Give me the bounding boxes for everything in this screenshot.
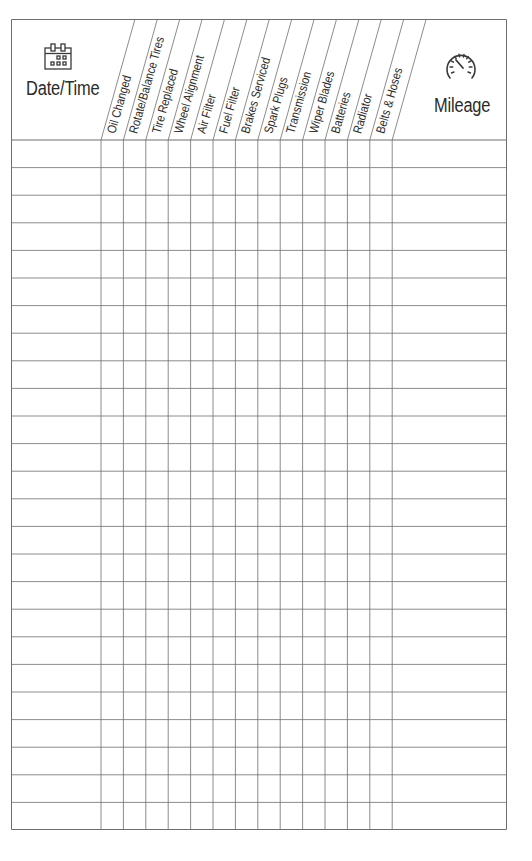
checkbox-cell[interactable] <box>303 692 325 720</box>
mileage-cell[interactable] <box>392 388 507 416</box>
checkbox-cell[interactable] <box>191 692 213 720</box>
checkbox-cell[interactable] <box>146 250 168 278</box>
checkbox-cell[interactable] <box>303 499 325 527</box>
checkbox-cell[interactable] <box>168 720 190 748</box>
checkbox-cell[interactable] <box>258 747 280 775</box>
checkbox-cell[interactable] <box>370 388 392 416</box>
date-time-cell[interactable] <box>11 444 101 472</box>
checkbox-cell[interactable] <box>347 195 369 223</box>
checkbox-cell[interactable] <box>101 361 123 389</box>
checkbox-cell[interactable] <box>191 195 213 223</box>
date-time-cell[interactable] <box>11 416 101 444</box>
mileage-cell[interactable] <box>392 416 507 444</box>
checkbox-cell[interactable] <box>235 775 257 803</box>
checkbox-cell[interactable] <box>235 664 257 692</box>
checkbox-cell[interactable] <box>235 499 257 527</box>
checkbox-cell[interactable] <box>258 140 280 168</box>
mileage-cell[interactable] <box>392 609 507 637</box>
checkbox-cell[interactable] <box>191 609 213 637</box>
checkbox-cell[interactable] <box>325 747 347 775</box>
checkbox-cell[interactable] <box>347 168 369 196</box>
checkbox-cell[interactable] <box>213 388 235 416</box>
checkbox-cell[interactable] <box>168 388 190 416</box>
checkbox-cell[interactable] <box>280 554 302 582</box>
date-time-cell[interactable] <box>11 720 101 748</box>
checkbox-cell[interactable] <box>347 444 369 472</box>
checkbox-cell[interactable] <box>258 637 280 665</box>
checkbox-cell[interactable] <box>168 278 190 306</box>
checkbox-cell[interactable] <box>303 140 325 168</box>
checkbox-cell[interactable] <box>123 720 145 748</box>
checkbox-cell[interactable] <box>347 223 369 251</box>
checkbox-cell[interactable] <box>123 554 145 582</box>
checkbox-cell[interactable] <box>168 637 190 665</box>
checkbox-cell[interactable] <box>101 692 123 720</box>
checkbox-cell[interactable] <box>258 554 280 582</box>
checkbox-cell[interactable] <box>235 195 257 223</box>
date-time-cell[interactable] <box>11 195 101 223</box>
checkbox-cell[interactable] <box>191 664 213 692</box>
checkbox-cell[interactable] <box>370 278 392 306</box>
checkbox-cell[interactable] <box>325 444 347 472</box>
mileage-cell[interactable] <box>392 802 507 830</box>
checkbox-cell[interactable] <box>325 168 347 196</box>
checkbox-cell[interactable] <box>280 140 302 168</box>
mileage-cell[interactable] <box>392 554 507 582</box>
checkbox-cell[interactable] <box>347 664 369 692</box>
checkbox-cell[interactable] <box>191 416 213 444</box>
checkbox-cell[interactable] <box>235 278 257 306</box>
checkbox-cell[interactable] <box>347 416 369 444</box>
checkbox-cell[interactable] <box>370 333 392 361</box>
checkbox-cell[interactable] <box>347 637 369 665</box>
checkbox-cell[interactable] <box>191 250 213 278</box>
checkbox-cell[interactable] <box>101 223 123 251</box>
mileage-cell[interactable] <box>392 168 507 196</box>
checkbox-cell[interactable] <box>123 223 145 251</box>
checkbox-cell[interactable] <box>325 361 347 389</box>
checkbox-cell[interactable] <box>235 416 257 444</box>
checkbox-cell[interactable] <box>101 526 123 554</box>
mileage-cell[interactable] <box>392 499 507 527</box>
checkbox-cell[interactable] <box>146 223 168 251</box>
checkbox-cell[interactable] <box>213 554 235 582</box>
checkbox-cell[interactable] <box>280 775 302 803</box>
date-time-cell[interactable] <box>11 361 101 389</box>
checkbox-cell[interactable] <box>123 747 145 775</box>
checkbox-cell[interactable] <box>168 471 190 499</box>
checkbox-cell[interactable] <box>325 499 347 527</box>
checkbox-cell[interactable] <box>347 747 369 775</box>
checkbox-cell[interactable] <box>303 471 325 499</box>
checkbox-cell[interactable] <box>123 775 145 803</box>
checkbox-cell[interactable] <box>168 609 190 637</box>
checkbox-cell[interactable] <box>347 278 369 306</box>
checkbox-cell[interactable] <box>325 416 347 444</box>
checkbox-cell[interactable] <box>213 140 235 168</box>
checkbox-cell[interactable] <box>191 388 213 416</box>
checkbox-cell[interactable] <box>258 444 280 472</box>
checkbox-cell[interactable] <box>146 361 168 389</box>
checkbox-cell[interactable] <box>258 416 280 444</box>
checkbox-cell[interactable] <box>168 416 190 444</box>
checkbox-cell[interactable] <box>280 664 302 692</box>
checkbox-cell[interactable] <box>280 444 302 472</box>
checkbox-cell[interactable] <box>325 609 347 637</box>
date-time-cell[interactable] <box>11 499 101 527</box>
checkbox-cell[interactable] <box>370 554 392 582</box>
checkbox-cell[interactable] <box>325 278 347 306</box>
checkbox-cell[interactable] <box>191 526 213 554</box>
mileage-cell[interactable] <box>392 223 507 251</box>
checkbox-cell[interactable] <box>325 250 347 278</box>
checkbox-cell[interactable] <box>123 140 145 168</box>
checkbox-cell[interactable] <box>101 416 123 444</box>
checkbox-cell[interactable] <box>146 195 168 223</box>
checkbox-cell[interactable] <box>347 306 369 334</box>
checkbox-cell[interactable] <box>325 223 347 251</box>
checkbox-cell[interactable] <box>370 582 392 610</box>
checkbox-cell[interactable] <box>213 526 235 554</box>
checkbox-cell[interactable] <box>235 692 257 720</box>
checkbox-cell[interactable] <box>325 554 347 582</box>
checkbox-cell[interactable] <box>258 526 280 554</box>
checkbox-cell[interactable] <box>101 278 123 306</box>
checkbox-cell[interactable] <box>325 664 347 692</box>
checkbox-cell[interactable] <box>123 278 145 306</box>
